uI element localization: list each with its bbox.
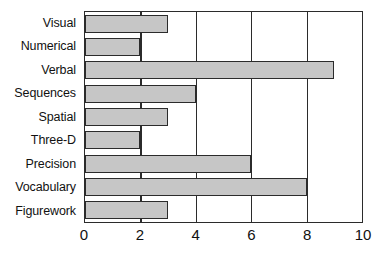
bar-slot [85,129,362,152]
category-label: Vocabulary [0,176,80,200]
x-tick-label: 4 [191,227,199,242]
x-tick-label: 10 [355,227,372,242]
bar-slot [85,82,362,105]
category-label: Precision [0,152,80,176]
bar [85,85,196,103]
category-label: Figurework [0,200,80,224]
bar [85,108,168,126]
bar [85,15,168,33]
bar-slot [85,105,362,128]
plot-area [84,11,363,223]
category-label: Verbal [0,58,80,82]
bars-layer [85,12,362,222]
category-label: Three-D [0,129,80,153]
category-label: Numerical [0,35,80,59]
bar [85,155,251,173]
bar-chart: VisualNumericalVerbalSequencesSpatialThr… [0,0,390,265]
bar [85,178,307,196]
bar-slot [85,12,362,35]
category-label: Sequences [0,82,80,106]
x-tick-label: 8 [303,227,311,242]
category-axis: VisualNumericalVerbalSequencesSpatialThr… [0,11,80,223]
bar-slot [85,152,362,175]
category-label: Spatial [0,105,80,129]
bar-slot [85,35,362,58]
x-tick-label: 2 [136,227,144,242]
bar [85,201,168,219]
bar-slot [85,175,362,198]
bar [85,38,140,56]
category-label: Visual [0,11,80,35]
bar-slot [85,59,362,82]
x-tick-label: 0 [80,227,88,242]
bar [85,131,140,149]
x-tick-label: 6 [247,227,255,242]
value-axis: 0246810 [84,227,363,253]
bar [85,61,334,79]
bar-slot [85,199,362,222]
